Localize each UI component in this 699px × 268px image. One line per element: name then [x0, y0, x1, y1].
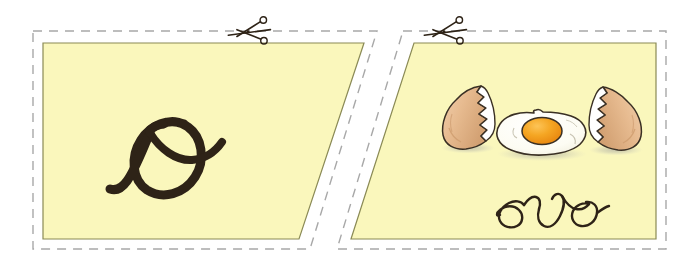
egg-yolk — [522, 118, 562, 145]
fried-egg — [497, 110, 586, 155]
worksheet-canvas — [0, 0, 699, 268]
